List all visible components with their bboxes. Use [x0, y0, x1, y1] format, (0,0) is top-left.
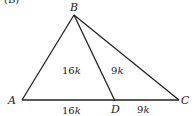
vertex-a-label: A: [7, 94, 16, 107]
segment-ab: [22, 15, 74, 100]
area-abd-label: 16k: [62, 65, 81, 76]
vertex-b-label: B: [69, 1, 78, 14]
length-ad-label: 16k: [62, 105, 81, 116]
vertex-c-label: C: [181, 94, 190, 107]
segment-bc: [74, 15, 179, 100]
area-dbc-label: 9k: [111, 65, 123, 76]
length-dc-label: 9k: [137, 104, 149, 115]
vertex-d-label: D: [110, 103, 120, 116]
triangle-diagram: (B) B A C D 16k 9k 16k 9k: [0, 0, 194, 116]
segment-bd: [74, 15, 115, 101]
part-label: (B): [4, 0, 19, 5]
